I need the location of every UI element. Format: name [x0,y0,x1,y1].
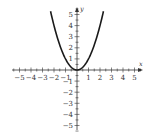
y-tick-label: 2 [69,44,73,52]
x-tick-label: 4 [121,74,126,82]
x-tick-label: −3 [37,74,47,82]
x-tick-label: 3 [109,74,113,82]
plot-area: −5−4−3−2−11234554321−1−2−3−4−5 x y [0,0,148,139]
x-axis-label: x [139,60,143,68]
x-tick-label: −2 [49,74,59,82]
y-tick-label: 4 [69,22,74,30]
y-tick-label: 5 [69,11,73,19]
y-tick-label: −4 [63,111,74,119]
y-tick-label: 3 [69,33,73,41]
y-tick-label: −2 [63,89,73,97]
x-tick-label: −5 [14,74,24,82]
y-tick-label: −1 [63,78,73,86]
y-axis-arrow-icon [75,7,79,12]
y-tick-label: −3 [63,100,73,108]
x-tick-label: 2 [98,74,102,82]
y-axis-label: y [79,5,84,13]
x-tick-label: 5 [132,74,136,82]
x-tick-label: −4 [26,74,37,82]
x-tick-label: 1 [86,74,90,82]
parabola-chart: −5−4−3−2−11234554321−1−2−3−4−5 x y [0,0,148,139]
y-tick-label: −5 [63,122,73,130]
y-tick-label: 1 [69,55,73,63]
